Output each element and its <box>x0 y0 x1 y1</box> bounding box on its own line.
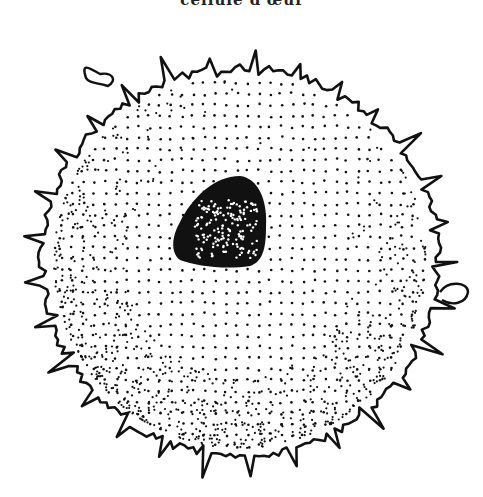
nucleus <box>173 176 266 268</box>
membrane-lobe-left <box>84 68 113 86</box>
cell-illustration <box>0 0 483 497</box>
membrane-lobe-right <box>440 284 468 304</box>
